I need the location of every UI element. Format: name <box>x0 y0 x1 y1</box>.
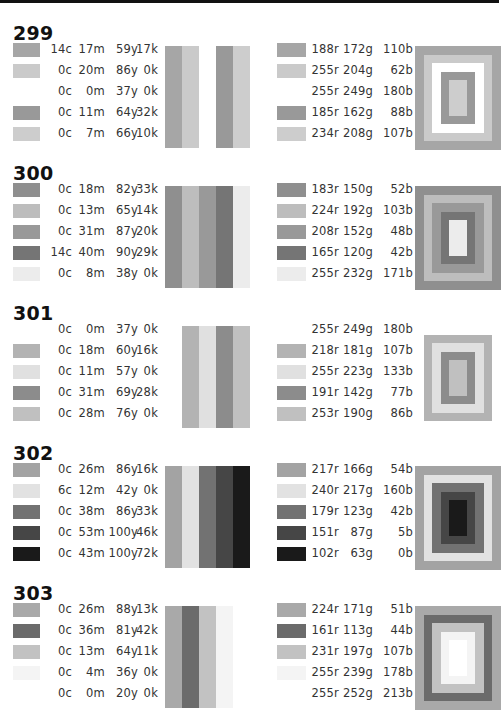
rgb-value-b: 160b <box>377 483 413 497</box>
cmyk-value-m: 26m <box>74 462 105 476</box>
cmyk-value-c: 0c <box>45 686 72 700</box>
color-stripe <box>182 466 199 568</box>
rgb-row: 240r217g160b <box>277 481 417 502</box>
color-swatch <box>277 225 306 239</box>
color-stripe <box>233 186 250 288</box>
color-swatch <box>13 204 40 218</box>
cmyk-value-c: 0c <box>45 343 72 357</box>
rgb-value-r: 183r <box>309 182 339 196</box>
cmyk-value-m: 20m <box>74 63 105 77</box>
rgb-value-b: 86b <box>377 406 413 420</box>
rgb-value-r: 224r <box>309 203 339 217</box>
rgb-row: 217r166g54b <box>277 460 417 481</box>
color-stripe <box>199 466 216 568</box>
cmyk-value-k: 0k <box>136 686 158 700</box>
cmyk-value-c: 0c <box>45 406 72 420</box>
rgb-value-g: 217g <box>341 483 373 497</box>
cmyk-value-k: 16k <box>136 462 158 476</box>
color-swatch <box>277 624 306 638</box>
color-swatch <box>277 463 306 477</box>
rgb-value-b: 213b <box>377 686 413 700</box>
concentric-squares <box>415 606 501 710</box>
square-ring <box>449 220 466 255</box>
color-swatch <box>13 645 40 659</box>
rgb-value-r: 188r <box>309 42 339 56</box>
cmyk-value-k: 0k <box>136 406 158 420</box>
color-swatch <box>13 666 40 680</box>
rgb-row: 224r171g51b <box>277 600 417 621</box>
cmyk-value-y: 66y <box>106 126 138 140</box>
rgb-value-r: 102r <box>309 546 339 560</box>
rgb-value-r: 179r <box>309 504 339 518</box>
color-swatch <box>13 225 40 239</box>
color-swatch <box>277 64 306 78</box>
color-stripe <box>199 186 216 288</box>
rgb-value-b: 48b <box>377 224 413 238</box>
cmyk-value-k: 17k <box>136 42 158 56</box>
rgb-row: 179r123g42b <box>277 502 417 523</box>
cmyk-value-k: 0k <box>136 665 158 679</box>
rgb-row: 165r120g42b <box>277 243 417 264</box>
rgb-value-r: 255r <box>309 84 339 98</box>
cmyk-value-k: 33k <box>136 182 158 196</box>
cmyk-value-m: 0m <box>74 322 105 336</box>
cmyk-value-k: 0k <box>136 364 158 378</box>
rgb-value-r: 255r <box>309 686 339 700</box>
color-stripes <box>165 466 250 568</box>
rgb-row: 208r152g48b <box>277 222 417 243</box>
color-swatch <box>277 43 306 57</box>
color-swatch <box>277 106 306 120</box>
rgb-value-r: 191r <box>309 385 339 399</box>
cmyk-value-c: 0c <box>45 644 72 658</box>
color-stripe <box>216 46 233 148</box>
color-swatch <box>13 267 40 281</box>
cmyk-value-y: 86y <box>106 462 138 476</box>
color-swatch <box>13 386 40 400</box>
cmyk-value-c: 0c <box>45 546 72 560</box>
cmyk-value-m: 26m <box>74 602 105 616</box>
cmyk-value-c: 6c <box>45 483 72 497</box>
palette-section-300: 3000c18m82y33k183r150g52b0c13m65y14k224r… <box>0 146 499 286</box>
rgb-value-b: 110b <box>377 42 413 56</box>
cmyk-value-m: 43m <box>74 546 105 560</box>
rgb-value-b: 42b <box>377 245 413 259</box>
cmyk-value-c: 0c <box>45 462 72 476</box>
color-stripe <box>165 466 182 568</box>
rgb-row: 255r223g133b <box>277 362 417 383</box>
rgb-value-g: 208g <box>341 126 373 140</box>
color-swatch <box>277 183 306 197</box>
cmyk-value-y: 37y <box>106 84 138 98</box>
color-swatch <box>277 365 306 379</box>
rgb-value-r: 255r <box>309 364 339 378</box>
cmyk-value-c: 0c <box>45 602 72 616</box>
rgb-value-g: 113g <box>341 623 373 637</box>
cmyk-value-k: 0k <box>136 483 158 497</box>
square-ring <box>449 80 466 115</box>
cmyk-value-y: 86y <box>106 504 138 518</box>
cmyk-value-k: 72k <box>136 546 158 560</box>
cmyk-value-c: 0c <box>45 385 72 399</box>
cmyk-value-m: 7m <box>74 126 105 140</box>
rgb-value-r: 255r <box>309 665 339 679</box>
cmyk-value-k: 32k <box>136 105 158 119</box>
cmyk-value-k: 42k <box>136 623 158 637</box>
cmyk-value-c: 14c <box>45 42 72 56</box>
rgb-value-r: 234r <box>309 126 339 140</box>
cmyk-value-m: 17m <box>74 42 105 56</box>
rgb-row: 255r204g62b <box>277 61 417 82</box>
top-border <box>0 0 499 3</box>
color-swatch <box>13 85 40 99</box>
cmyk-value-m: 8m <box>74 266 105 280</box>
cmyk-value-k: 0k <box>136 84 158 98</box>
rgb-value-g: 232g <box>341 266 373 280</box>
cmyk-value-y: 100y <box>106 525 138 539</box>
rgb-value-g: 120g <box>341 245 373 259</box>
cmyk-value-c: 0c <box>45 63 72 77</box>
cmyk-value-y: 57y <box>106 364 138 378</box>
color-swatch <box>13 547 40 561</box>
color-stripe <box>182 186 199 288</box>
color-stripe <box>182 46 199 148</box>
cmyk-value-y: 82y <box>106 182 138 196</box>
rgb-value-g: 166g <box>341 462 373 476</box>
color-stripes <box>165 46 250 148</box>
